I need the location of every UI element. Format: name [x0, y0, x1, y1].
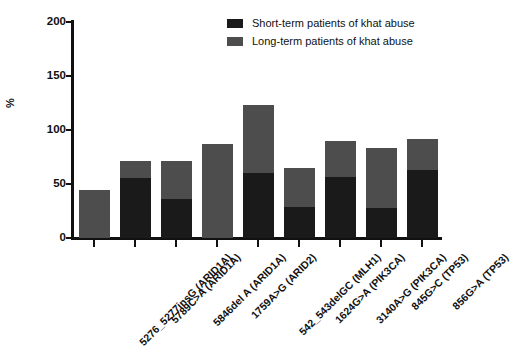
bar-9: [407, 139, 438, 238]
bar-7: [325, 141, 356, 238]
bar-5: [243, 105, 274, 238]
bar-segment-long-term: [243, 105, 274, 173]
bar-segment-long-term: [407, 139, 438, 169]
bar-segment-short-term: [325, 177, 356, 238]
legend-swatch-short-term: [227, 19, 243, 28]
bar-segment-long-term: [284, 168, 315, 207]
x-tick-mark-7: [339, 240, 342, 247]
bar-segment-short-term: [161, 199, 192, 238]
bar-2: [120, 161, 151, 238]
bar-segment-long-term: [325, 141, 356, 177]
bar-6: [284, 168, 315, 239]
bar-segment-long-term: [120, 161, 151, 178]
bar-segment-long-term: [366, 148, 397, 208]
x-tick-mark-1: [93, 240, 96, 247]
bar-1: [79, 190, 110, 238]
legend-swatch-long-term: [227, 37, 243, 46]
y-axis-ticks: 200 150 100 50 0: [26, 0, 66, 364]
legend-label-short-term: Short-term patients of khat abuse: [252, 18, 415, 29]
y-tick-label-200: 200: [32, 16, 66, 28]
x-tick-mark-5: [257, 240, 260, 247]
bar-3: [161, 161, 192, 238]
x-tick-mark-6: [298, 240, 301, 247]
bar-segment-short-term: [120, 178, 151, 238]
legend-label-long-term: Long-term patients of khat abuse: [252, 36, 413, 47]
y-tick-label-50: 50: [32, 178, 66, 190]
bar-segment-long-term: [202, 144, 233, 238]
x-tick-mark-4: [216, 240, 219, 247]
legend-item-long-term: Long-term patients of khat abuse: [227, 35, 455, 48]
y-axis-label: %: [4, 98, 16, 108]
bar-segment-short-term: [366, 208, 397, 238]
x-tick-mark-9: [421, 240, 424, 247]
bar-4: [202, 144, 233, 238]
legend-item-short-term: Short-term patients of khat abuse: [227, 17, 455, 30]
plot-area: [74, 21, 443, 238]
x-tick-mark-2: [134, 240, 137, 247]
y-tick-label-100: 100: [32, 124, 66, 136]
bar-segment-short-term: [284, 207, 315, 238]
bar-segment-long-term: [79, 190, 110, 238]
x-tick-mark-8: [380, 240, 383, 247]
y-tick-label-0: 0: [32, 232, 66, 244]
bar-8: [366, 148, 397, 238]
x-tick-mark-3: [175, 240, 178, 247]
chart-legend: Short-term patients of khat abuse Long-t…: [227, 17, 455, 53]
bar-segment-short-term: [243, 173, 274, 238]
bar-segment-short-term: [407, 170, 438, 238]
bar-segment-long-term: [161, 161, 192, 199]
y-tick-label-150: 150: [32, 70, 66, 82]
